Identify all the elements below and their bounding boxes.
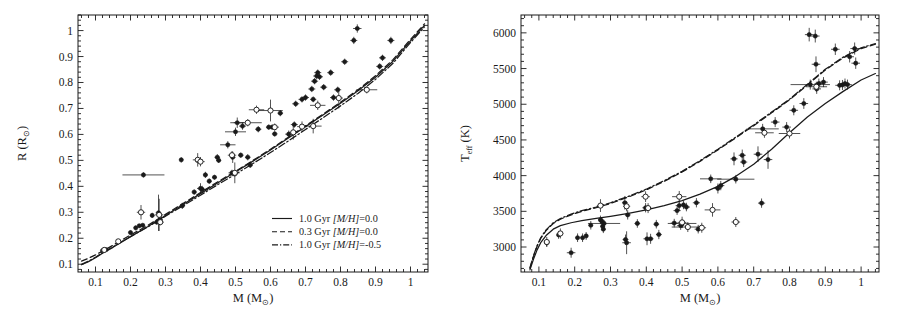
data-point-filled xyxy=(278,111,282,115)
y-tick-label: 6000 xyxy=(493,27,516,39)
x-tick-label: 0.1 xyxy=(88,276,103,288)
data-point-filled xyxy=(732,157,736,161)
y-tick-label: 5000 xyxy=(493,98,516,110)
x-tick-label: 0.7 xyxy=(298,276,313,288)
data-point-filled xyxy=(313,79,317,83)
data-point-filled xyxy=(128,230,132,234)
data-point-open xyxy=(158,220,163,225)
data-point-open xyxy=(677,194,682,199)
y-tick-label: 0.3 xyxy=(59,206,74,218)
data-point-filled xyxy=(310,87,314,91)
data-point-filled xyxy=(317,75,321,79)
data-point-filled xyxy=(648,237,652,241)
y-axis-label: R (R⊙) xyxy=(15,126,31,161)
plot-frame xyxy=(521,15,879,272)
data-point-open xyxy=(624,204,629,209)
data-point-open xyxy=(268,108,273,113)
figure-container: 0.10.20.30.40.50.60.70.80.910.10.20.30.4… xyxy=(0,0,898,321)
y-tick-label: 0.5 xyxy=(59,154,74,166)
data-point-filled xyxy=(180,204,184,208)
data-point-open xyxy=(198,159,203,164)
data-point-filled xyxy=(808,83,812,87)
axis-ticks xyxy=(521,15,879,272)
data-point-open xyxy=(558,231,563,236)
data-point-open xyxy=(291,130,296,135)
data-point-filled xyxy=(207,179,211,183)
data-point-filled xyxy=(311,97,315,101)
x-tick-label: 0.2 xyxy=(123,276,138,288)
legend-label-dashdot: 1.0 Gyr [M/H]=-0.5 xyxy=(299,239,381,250)
data-point-filled xyxy=(807,33,811,37)
x-tick-label: 0.4 xyxy=(639,276,654,288)
data-point-filled xyxy=(256,127,260,131)
y-tick-label: 0.9 xyxy=(59,51,74,63)
data-point-filled xyxy=(601,227,605,231)
data-point-open xyxy=(254,107,259,112)
data-point-filled xyxy=(773,120,777,124)
x-tick-label: 1 xyxy=(408,276,414,288)
data-point-filled xyxy=(192,190,196,194)
data-point-filled xyxy=(635,221,639,225)
x-axis-label: M (M⊙) xyxy=(680,291,721,307)
data-point-open xyxy=(733,219,738,224)
data-point-filled xyxy=(821,80,825,84)
data-point-filled xyxy=(380,56,384,60)
data-point-open xyxy=(598,203,603,208)
x-tick-label: 0.8 xyxy=(333,276,348,288)
data-point-filled xyxy=(217,158,221,162)
data-point-filled xyxy=(233,130,237,134)
data-point-filled xyxy=(378,64,382,68)
data-point-open xyxy=(229,153,234,158)
data-point-filled xyxy=(848,55,852,59)
x-tick-label: 0.7 xyxy=(747,276,762,288)
data-point-filled xyxy=(141,173,145,177)
data-point-open xyxy=(680,220,685,225)
x-axis-label: M (M⊙) xyxy=(233,291,274,307)
data-point-filled xyxy=(853,46,857,50)
data-point-filled xyxy=(226,143,230,147)
data-point-filled xyxy=(584,234,588,238)
data-point-open xyxy=(699,225,704,230)
panel-mass-temperature: 0.10.20.30.40.50.60.70.80.91300035004000… xyxy=(449,0,898,321)
legend: 1.0 Gyr [M/H]=0.00.3 Gyr [M/H]=0.01.0 Gy… xyxy=(272,213,381,250)
legend-item-dashdot: 1.0 Gyr [M/H]=-0.5 xyxy=(272,239,381,250)
data-point-filled xyxy=(759,201,763,205)
data-point-open xyxy=(645,206,650,211)
data-point-filled xyxy=(240,124,244,128)
data-point-filled xyxy=(336,88,340,92)
data-point-filled xyxy=(675,209,679,213)
data-point-filled xyxy=(141,223,145,227)
data-point-filled xyxy=(322,85,326,89)
panel-mass-radius: 0.10.20.30.40.50.60.70.80.910.10.20.30.4… xyxy=(0,0,449,321)
y-tick-label: 5500 xyxy=(493,63,516,75)
data-point-filled xyxy=(854,61,858,65)
tick-labels: 0.10.20.30.40.50.60.70.80.91300035004000… xyxy=(493,27,864,288)
x-tick-label: 0.6 xyxy=(263,276,278,288)
y-tick-label: 0.6 xyxy=(59,128,74,140)
data-point-filled xyxy=(802,101,806,105)
data-point-filled xyxy=(694,201,698,205)
data-point-open xyxy=(102,247,107,252)
data-point-filled xyxy=(292,122,296,126)
data-point-filled xyxy=(303,95,307,99)
y-tick-label: 0.8 xyxy=(59,76,74,88)
data-point-filled xyxy=(239,153,243,157)
data-point-filled xyxy=(756,152,760,156)
x-tick-label: 0.9 xyxy=(368,276,383,288)
data-point-filled xyxy=(248,163,252,167)
data-point-filled xyxy=(343,60,347,64)
x-tick-label: 0.6 xyxy=(711,276,726,288)
data-point-filled xyxy=(845,83,849,87)
y-tick-label: 1 xyxy=(67,25,73,37)
data-point-filled xyxy=(331,95,335,99)
data-point-filled xyxy=(792,108,796,112)
data-point-filled xyxy=(602,221,606,225)
data-point-filled xyxy=(212,175,216,179)
y-tick-label: 0.7 xyxy=(59,102,74,114)
y-tick-label: 0.1 xyxy=(59,258,74,270)
data-point-filled xyxy=(355,26,359,30)
legend-item-solid: 1.0 Gyr [M/H]=0.0 xyxy=(272,213,378,224)
y-tick-label: 4000 xyxy=(493,170,516,182)
data-point-filled xyxy=(179,158,183,162)
data-point-filled xyxy=(654,222,658,226)
